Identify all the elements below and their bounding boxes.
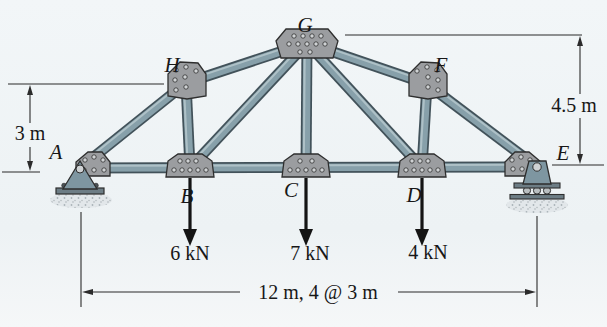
- rivet-icon: [188, 168, 192, 172]
- rivet-icon: [308, 50, 312, 54]
- rivet-icon: [415, 69, 419, 73]
- rivet-icon: [92, 155, 96, 159]
- pin-icon: [76, 165, 84, 173]
- joint-label-b: B: [181, 184, 194, 208]
- joint-label-f: F: [434, 53, 448, 77]
- dim-label-right-height: 4.5 m: [551, 94, 597, 116]
- gusset-B: [166, 154, 214, 177]
- rivet-icon: [292, 34, 296, 38]
- rivet-icon: [287, 42, 291, 46]
- rivet-icon: [310, 159, 314, 163]
- load-label-b: 6 kN: [170, 242, 209, 264]
- rivet-icon: [204, 168, 208, 172]
- rivet-icon: [178, 159, 182, 163]
- rivet-icon: [304, 168, 308, 172]
- joint-label-h: H: [163, 53, 181, 77]
- rivet-icon: [298, 50, 302, 54]
- rivet-icon: [314, 42, 318, 46]
- rivet-icon: [298, 159, 302, 163]
- rivet-icon: [288, 168, 292, 172]
- rivet-icon: [520, 167, 524, 171]
- rivet-icon: [420, 168, 424, 172]
- rivet-icon: [296, 168, 300, 172]
- pin-icon: [533, 163, 541, 171]
- joint-label-c: C: [284, 178, 299, 202]
- rivet-icon: [186, 159, 190, 163]
- rivet-icon: [404, 168, 408, 172]
- truss-figure-stage: A B C D E H G F 6 kN 7 kN 4 kN 3 m 4.5 m…: [0, 0, 607, 327]
- rivet-icon: [174, 88, 178, 92]
- rivet-icon: [83, 158, 87, 162]
- rivet-icon: [410, 159, 414, 163]
- rivet-icon: [426, 75, 430, 79]
- rivet-icon: [296, 42, 300, 46]
- rivet-icon: [305, 42, 309, 46]
- gusset-D: [398, 154, 446, 177]
- rivet-icon: [319, 34, 323, 38]
- rivet-icon: [102, 168, 106, 172]
- rivet-icon: [426, 159, 430, 163]
- dim-label-bottom-span: 12 m, 4 @ 3 m: [258, 281, 378, 304]
- joint-label-e: E: [556, 141, 570, 165]
- rivet-icon: [92, 168, 96, 172]
- rivet-icon: [436, 88, 440, 92]
- rivet-icon: [172, 168, 176, 172]
- rivet-icon: [173, 78, 177, 82]
- rivet-icon: [194, 69, 198, 73]
- rivet-icon: [428, 168, 432, 172]
- rivet-icon: [312, 168, 316, 172]
- rivet-icon: [426, 85, 430, 89]
- rivet-icon: [184, 65, 188, 69]
- rivet-icon: [323, 42, 327, 46]
- gusset-C: [282, 154, 330, 177]
- dim-label-left-height: 3 m: [15, 122, 46, 144]
- rivet-icon: [183, 75, 187, 79]
- rivet-icon: [196, 168, 200, 172]
- load-label-d: 4 kN: [408, 241, 447, 263]
- joint-label-a: A: [48, 140, 63, 164]
- member-C-G: [304, 43, 307, 168]
- rivet-icon: [511, 167, 515, 171]
- rivet-icon: [436, 168, 440, 172]
- joint-label-d: D: [405, 183, 421, 207]
- rivet-icon: [436, 78, 440, 82]
- rivet-icon: [194, 159, 198, 163]
- joint-label-g: G: [297, 13, 312, 37]
- rivet-icon: [184, 85, 188, 89]
- rivet-icon: [510, 158, 514, 162]
- load-label-c: 7 kN: [290, 242, 329, 264]
- rivet-icon: [101, 158, 105, 162]
- rivet-icon: [412, 168, 416, 172]
- truss-diagram: A B C D E H G F 6 kN 7 kN 4 kN 3 m 4.5 m…: [0, 0, 607, 327]
- rivet-icon: [418, 159, 422, 163]
- rivet-icon: [320, 168, 324, 172]
- rivet-icon: [425, 65, 429, 69]
- rivet-icon: [180, 168, 184, 172]
- rivet-icon: [519, 155, 523, 159]
